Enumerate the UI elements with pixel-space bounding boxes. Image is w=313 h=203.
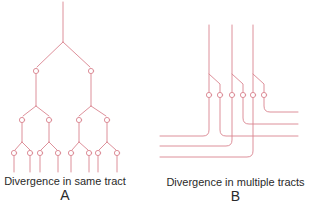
panel-a-label: A	[0, 187, 130, 203]
bouton-icon	[95, 150, 100, 155]
panel-b-caption: Divergence in multiple tracts	[158, 176, 313, 188]
panel-b-tracts	[160, 25, 298, 157]
bouton-icon	[68, 150, 73, 155]
bouton-icon	[240, 92, 245, 97]
bouton-icon	[250, 92, 255, 97]
panel-a-caption: Divergence in same tract	[0, 175, 130, 187]
bouton-icon	[86, 150, 91, 155]
bouton-icon	[11, 150, 16, 155]
divergence-diagram	[0, 0, 313, 203]
bouton-icon	[33, 68, 38, 73]
bouton-icon	[104, 117, 109, 122]
bouton-icon	[55, 150, 60, 155]
panel-a-tree	[11, 2, 119, 172]
bouton-icon	[19, 117, 24, 122]
bouton-icon	[46, 117, 51, 122]
bouton-icon	[27, 150, 32, 155]
bouton-icon	[229, 92, 234, 97]
bouton-icon	[76, 117, 81, 122]
bouton-icon	[261, 92, 266, 97]
bouton-icon	[88, 68, 93, 73]
bouton-icon	[114, 150, 119, 155]
panel-b-label: B	[158, 188, 313, 203]
bouton-icon	[206, 92, 211, 97]
bouton-icon	[37, 150, 42, 155]
bouton-icon	[217, 92, 222, 97]
